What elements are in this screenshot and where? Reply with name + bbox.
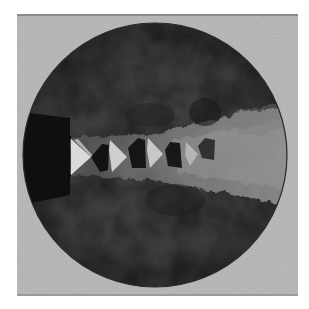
- nozzle-lip-bottom: [68, 174, 71, 177]
- schlieren-photograph: [0, 0, 309, 309]
- nozzle-lip-top: [68, 136, 71, 139]
